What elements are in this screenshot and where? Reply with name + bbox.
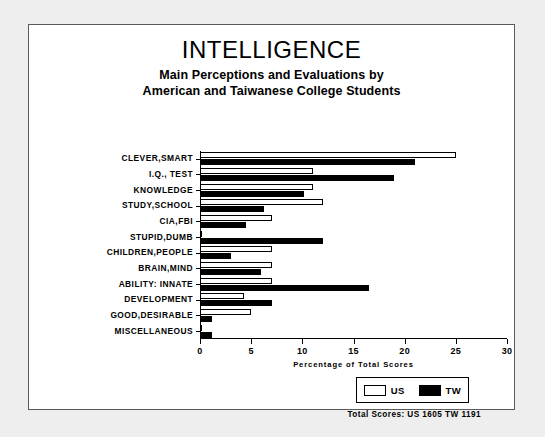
x-tick-mark	[302, 339, 303, 344]
category-label: KNOWLEDGE	[134, 185, 200, 195]
category-label: MISCELLANEOUS	[115, 326, 200, 336]
category-label: I.Q., TEST	[149, 169, 200, 179]
bar-us	[200, 168, 313, 174]
legend-entry-tw: TW	[419, 385, 462, 396]
bar-us	[200, 246, 272, 252]
title-block: INTELLIGENCE Main Perceptions and Evalua…	[29, 37, 514, 99]
legend-swatch-us-icon	[364, 385, 386, 396]
plot-area: CLEVER,SMARTI.Q., TESTKNOWLEDGESTUDY,SCH…	[200, 151, 507, 339]
bar-us	[200, 231, 202, 237]
category-label: CLEVER,SMART	[122, 153, 200, 163]
x-tick-label: 10	[297, 346, 308, 356]
legend-entry-us: US	[364, 385, 405, 396]
legend-label-us: US	[391, 385, 405, 396]
x-tick-mark	[354, 339, 355, 344]
x-tick-mark	[251, 339, 252, 344]
bar-row: STUPID,DUMB	[200, 229, 507, 245]
x-tick-label: 0	[197, 346, 202, 356]
bar-row: MISCELLANEOUS	[200, 323, 507, 339]
bar-us	[200, 325, 202, 331]
bar-row: CIA,FBI	[200, 214, 507, 230]
x-tick-mark	[507, 339, 508, 344]
bar-tw	[200, 191, 304, 197]
x-tick-label: 30	[502, 346, 513, 356]
bar-tw	[200, 206, 264, 212]
category-label: GOOD,DESIRABLE	[110, 310, 200, 320]
x-tick-mark	[456, 339, 457, 344]
bar-tw	[200, 253, 231, 259]
category-label: CHILDREN,PEOPLE	[107, 247, 200, 257]
bar-row: CLEVER,SMART	[200, 151, 507, 167]
bar-us	[200, 152, 456, 158]
x-axis-title: Percentage of Total Scores	[200, 360, 507, 369]
bar-us	[200, 215, 272, 221]
category-label: BRAIN,MIND	[138, 263, 200, 273]
category-label: CIA,FBI	[160, 216, 200, 226]
bar-tw	[200, 175, 394, 181]
bar-us	[200, 184, 313, 190]
bar-row: GOOD,DESIRABLE	[200, 308, 507, 324]
bar-us	[200, 293, 244, 299]
bar-tw	[200, 316, 212, 322]
bar-tw	[200, 332, 212, 338]
bar-row: KNOWLEDGE	[200, 182, 507, 198]
bar-us	[200, 309, 251, 315]
chart-figure-frame: INTELLIGENCE Main Perceptions and Evalua…	[28, 24, 515, 410]
x-tick-label: 15	[348, 346, 359, 356]
category-label: STUPID,DUMB	[130, 232, 200, 242]
bar-row: DEVELOPMENT	[200, 292, 507, 308]
x-tick-label: 20	[399, 346, 410, 356]
bar-tw	[200, 238, 323, 244]
legend-label-tw: TW	[446, 385, 462, 396]
chart-subtitle-line-2: American and Taiwanese College Students	[29, 83, 514, 99]
bar-us	[200, 262, 272, 268]
legend-swatch-tw-icon	[419, 385, 441, 396]
bar-row: CHILDREN,PEOPLE	[200, 245, 507, 261]
bar-row: STUDY,SCHOOL	[200, 198, 507, 214]
bar-us	[200, 199, 323, 205]
bar-tw	[200, 222, 246, 228]
bar-row: BRAIN,MIND	[200, 261, 507, 277]
bar-tw	[200, 269, 261, 275]
bar-tw	[200, 285, 369, 291]
x-tick-mark	[405, 339, 406, 344]
chart-title: INTELLIGENCE	[29, 37, 514, 62]
x-tick-label: 25	[451, 346, 462, 356]
bar-row: I.Q., TEST	[200, 167, 507, 183]
chart-legend: US TW	[356, 377, 469, 403]
bar-row: ABILITY: INNATE	[200, 276, 507, 292]
x-tick-mark	[200, 339, 201, 344]
x-tick-label: 5	[249, 346, 254, 356]
category-label: STUDY,SCHOOL	[122, 200, 200, 210]
chart-subtitle-line-1: Main Perceptions and Evaluations by	[29, 67, 514, 83]
total-scores-annotation: Total Scores: US 1605 TW 1191	[29, 410, 516, 419]
category-label: ABILITY: INNATE	[119, 279, 200, 289]
bar-tw	[200, 300, 272, 306]
bar-us	[200, 278, 272, 284]
category-label: DEVELOPMENT	[124, 294, 200, 304]
bar-tw	[200, 159, 415, 165]
